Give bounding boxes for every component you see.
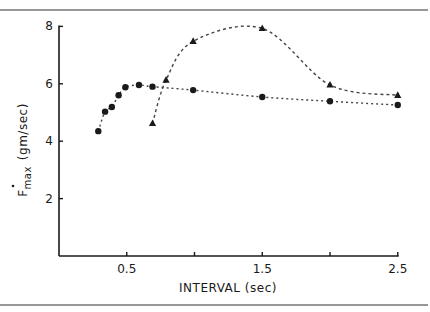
- svg-text:Fmax(gm/sec): Fmax(gm/sec): [16, 103, 33, 197]
- x-tick-label: 2.5: [388, 262, 407, 276]
- axes: 24680.51.52.5: [45, 19, 407, 276]
- dot-accent: [12, 185, 15, 188]
- y-axis-title-main: F: [16, 189, 30, 196]
- data-point-circle: [149, 83, 155, 89]
- y-axis-title: Fmax(gm/sec): [12, 103, 33, 197]
- data-point-triangle: [149, 119, 156, 126]
- data-point-circle: [115, 92, 121, 98]
- y-axis-title-units: (gm/sec): [16, 103, 30, 160]
- y-tick-label: 6: [45, 77, 53, 91]
- y-tick-label: 4: [45, 134, 53, 148]
- x-tick-label: 0.5: [117, 262, 136, 276]
- x-axis-title: INTERVAL (sec): [179, 281, 277, 295]
- y-tick-label: 8: [45, 19, 53, 33]
- data-point-triangle: [162, 76, 169, 83]
- x-tick-label: 1.5: [253, 262, 272, 276]
- series-line: [152, 26, 397, 123]
- chart: 24680.51.52.5 INTERVAL (sec) Fmax(gm/sec…: [0, 0, 430, 312]
- data-point-circle: [259, 94, 265, 100]
- data-point-triangle: [326, 81, 333, 88]
- series-layer: [95, 24, 401, 134]
- y-tick-label: 2: [45, 192, 53, 206]
- data-point-circle: [109, 104, 115, 110]
- data-point-circle: [327, 98, 333, 104]
- data-point-circle: [95, 128, 101, 134]
- series-triangles: [149, 24, 401, 126]
- data-point-circle: [395, 102, 401, 108]
- data-point-circle: [190, 87, 196, 93]
- data-point-circle: [122, 84, 128, 90]
- data-point-circle: [136, 82, 142, 88]
- series-circles: [95, 82, 401, 135]
- data-point-circle: [102, 108, 108, 114]
- y-axis-title-sub: max: [22, 166, 33, 189]
